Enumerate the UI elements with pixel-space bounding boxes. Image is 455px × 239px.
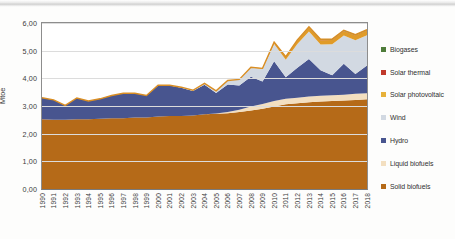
- x-axis-tick-label: 2009: [259, 193, 266, 208]
- legend-item-label: Solar photovoltaic: [390, 91, 444, 98]
- x-axis-tick-label: 2013: [306, 193, 313, 208]
- legend-item-label: Solar thermal: [390, 69, 430, 76]
- gridline: [42, 134, 367, 135]
- legend-swatch-icon: [381, 115, 386, 120]
- x-axis-tick-label: 2004: [201, 193, 208, 208]
- x-axis-tick-label: 1999: [143, 193, 150, 208]
- legend-item-label: Biogases: [390, 46, 418, 53]
- x-axis-tick-label: 2006: [224, 193, 231, 208]
- legend-item-solid-biofuels[interactable]: Solid biofuels: [381, 175, 455, 198]
- x-axis-tick-label: 1990: [39, 193, 46, 208]
- legend-swatch-icon: [381, 184, 386, 189]
- x-axis-tick-label: 2018: [364, 193, 371, 208]
- y-axis-tick-label: 3,00: [3, 102, 37, 111]
- legend-item-liquid-biofuels[interactable]: Liquid biofuels: [381, 152, 455, 175]
- x-axis-tick-label: 2000: [155, 193, 162, 208]
- x-axis-tick-label: 1995: [97, 193, 104, 208]
- gridline: [42, 51, 367, 52]
- y-axis-tick-label: 2,00: [3, 129, 37, 138]
- x-axis-tick-label: 2001: [166, 193, 173, 208]
- y-axis-tick-label: 6,00: [3, 19, 37, 28]
- x-axis-tick-label: 1992: [62, 193, 69, 208]
- legend-item-solar-photovoltaic[interactable]: Solar photovoltaic: [381, 84, 455, 107]
- legend-item-label: Wind: [390, 114, 406, 121]
- legend-swatch-icon: [381, 92, 386, 97]
- x-axis-tick-label: 2015: [329, 193, 336, 208]
- legend-swatch-icon: [381, 47, 386, 52]
- x-axis-tick-label: 1998: [132, 193, 139, 208]
- x-axis-tick-label: 2008: [248, 193, 255, 208]
- legend-item-hydro[interactable]: Hydro: [381, 129, 455, 152]
- x-axis-tick-label: 2002: [178, 193, 185, 208]
- stacked-area-chart: Mtoe BiogasesSolar thermalSolar photovol…: [0, 0, 455, 239]
- legend-item-wind[interactable]: Wind: [381, 106, 455, 129]
- legend-swatch-icon: [381, 70, 386, 75]
- legend-item-label: Liquid biofuels: [390, 160, 433, 167]
- gridline: [42, 78, 367, 79]
- legend-item-label: Solid biofuels: [390, 183, 430, 190]
- legend-item-label: Hydro: [390, 137, 408, 144]
- x-axis-tick-label: 1997: [120, 193, 127, 208]
- x-axis-tick-label: 1991: [50, 193, 57, 208]
- legend-swatch-icon: [381, 161, 386, 166]
- legend-item-biogases[interactable]: Biogases: [381, 38, 455, 61]
- y-axis-tick-label: 0,00: [3, 185, 37, 194]
- gridline: [42, 161, 367, 162]
- x-axis-tick-label: 1994: [85, 193, 92, 208]
- legend-item-solar-thermal[interactable]: Solar thermal: [381, 61, 455, 84]
- gridline: [42, 106, 367, 107]
- x-axis-tick-label: 2010: [271, 193, 278, 208]
- x-axis-tick-label: 2014: [317, 193, 324, 208]
- x-axis-tick-label: 2016: [340, 193, 347, 208]
- gridline: [42, 23, 367, 24]
- legend-swatch-icon: [381, 138, 386, 143]
- x-axis-tick-label: 2012: [294, 193, 301, 208]
- y-axis-tick-label: 4,00: [3, 74, 37, 83]
- x-axis-tick-label: 1996: [108, 193, 115, 208]
- x-axis-tick-label: 2011: [282, 193, 289, 208]
- x-axis-tick-label: 2003: [190, 193, 197, 208]
- x-axis-tick-label: 2005: [213, 193, 220, 208]
- x-axis-tick-label: 1993: [74, 193, 81, 208]
- y-axis-tick-label: 1,00: [3, 157, 37, 166]
- plot-area: [41, 22, 368, 190]
- chart-legend: BiogasesSolar thermalSolar photovoltaicW…: [381, 38, 455, 198]
- x-axis-tick-label: 2017: [352, 193, 359, 208]
- x-axis-tick-label: 2007: [236, 193, 243, 208]
- y-axis-tick-label: 5,00: [3, 46, 37, 55]
